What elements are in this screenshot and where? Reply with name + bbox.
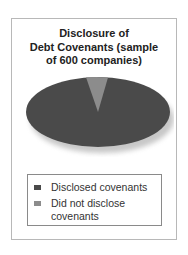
chart-title: Disclosure of Debt Covenants (sample of … (12, 27, 176, 68)
legend-swatch-not-disclosed (34, 201, 41, 206)
title-line-3: of 600 companies) (12, 54, 176, 68)
legend-label-disclosed: Disclosed covenants (51, 181, 161, 194)
legend-label-not-disclosed: Did not disclose covenants (51, 197, 161, 222)
legend-label-line-1: Did not disclose (51, 197, 161, 210)
title-line-1: Disclosure of (12, 27, 176, 41)
legend-swatch-disclosed (34, 185, 41, 190)
pie-chart (24, 75, 174, 157)
legend-label-line-2: covenants (51, 210, 161, 223)
legend: Disclosed covenants Did not disclose cov… (27, 174, 162, 226)
chart-frame: Disclosure of Debt Covenants (sample of … (11, 18, 177, 240)
title-line-2: Debt Covenants (sample (12, 41, 176, 55)
